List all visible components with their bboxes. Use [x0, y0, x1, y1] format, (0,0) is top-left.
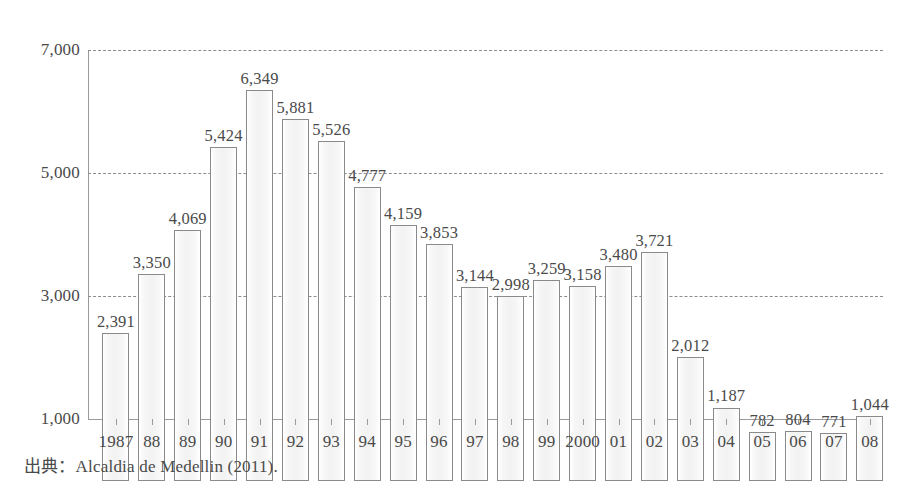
bar-value-label: 3,480	[599, 245, 637, 265]
x-axis-tick	[331, 419, 332, 425]
x-axis-tick-label: 94	[359, 432, 376, 452]
x-axis-tick	[188, 419, 189, 425]
x-axis-tick-label: 96	[430, 432, 447, 452]
y-axis-tick-label: 5,000	[41, 163, 80, 183]
bar	[282, 119, 309, 481]
bar-value-label: 3,721	[635, 231, 673, 251]
bar-value-label: 1,187	[707, 386, 745, 406]
bar-value-label: 5,424	[205, 126, 243, 146]
bar-value-label: 6,349	[240, 69, 278, 89]
y-axis-tick-label: 1,000	[41, 409, 80, 429]
bar-value-label: 2,391	[97, 312, 135, 332]
bar-value-label: 4,069	[169, 209, 207, 229]
x-axis-tick	[439, 419, 440, 425]
x-axis-tick-label: 98	[502, 432, 519, 452]
x-axis-tick	[726, 419, 727, 425]
bar-value-label: 3,259	[528, 259, 566, 279]
x-axis-tick	[295, 419, 296, 425]
x-axis-tick-label: 1987	[99, 432, 134, 452]
x-axis-tick-label: 92	[287, 432, 304, 452]
x-axis-tick	[654, 419, 655, 425]
x-axis-tick	[511, 419, 512, 425]
x-axis-tick	[583, 419, 584, 425]
y-axis-tick-label: 3,000	[41, 286, 80, 306]
bar-fill	[283, 120, 308, 480]
x-axis-tick-label: 05	[753, 432, 770, 452]
x-axis-tick	[690, 419, 691, 425]
y-axis-line	[88, 50, 89, 419]
bar-value-label: 5,526	[312, 120, 350, 140]
x-axis-tick-label: 93	[323, 432, 340, 452]
source-note: 出典：Alcaldia de Medellin (2011).	[24, 452, 278, 477]
plot-area: 7,0005,0003,0001,000 2,3913,3504,0695,42…	[88, 50, 883, 419]
x-axis-tick-label: 08	[861, 432, 878, 452]
x-axis-tick-label: 90	[215, 432, 232, 452]
gridline	[88, 50, 883, 51]
x-axis-tick-label: 88	[143, 432, 160, 452]
bar-value-label: 2,998	[492, 275, 530, 295]
bar	[210, 147, 237, 481]
bar-fill	[319, 142, 344, 480]
bar-value-label: 2,012	[671, 336, 709, 356]
x-axis-tick	[367, 419, 368, 425]
x-axis-tick	[870, 419, 871, 425]
x-axis-tick-label: 99	[538, 432, 555, 452]
bar-value-label: 4,777	[348, 166, 386, 186]
bar-value-label: 5,881	[276, 98, 314, 118]
y-axis-tick-label: 7,000	[41, 40, 80, 60]
bar	[318, 141, 345, 481]
x-axis-tick	[116, 419, 117, 425]
bar-value-label: 1,044	[851, 395, 889, 415]
x-axis-tick-label: 89	[179, 432, 196, 452]
bar-value-label: 3,350	[133, 253, 171, 273]
x-axis-tick-label: 04	[718, 432, 735, 452]
x-axis-tick	[260, 419, 261, 425]
x-axis-tick-label: 91	[251, 432, 268, 452]
x-axis-tick-label: 02	[646, 432, 663, 452]
x-axis-tick-label: 06	[789, 432, 806, 452]
bar-fill	[211, 148, 236, 480]
x-axis-tick-label: 03	[682, 432, 699, 452]
bar-value-label: 4,159	[384, 204, 422, 224]
bar-value-label: 3,144	[456, 266, 494, 286]
x-axis-tick-label: 01	[610, 432, 627, 452]
x-axis-tick	[547, 419, 548, 425]
x-axis-tick-label: 95	[394, 432, 411, 452]
bar-fill	[498, 297, 523, 479]
gridline	[88, 173, 883, 174]
x-axis-tick-label: 2000	[565, 432, 600, 452]
x-axis-tick	[834, 419, 835, 425]
x-axis-tick	[762, 419, 763, 425]
x-axis-tick-label: 97	[466, 432, 483, 452]
x-axis-tick-label: 07	[825, 432, 842, 452]
x-axis-tick	[152, 419, 153, 425]
x-axis-tick	[619, 419, 620, 425]
bar-value-label: 3,158	[564, 265, 602, 285]
bar-chart-figure: 7,0005,0003,0001,000 2,3913,3504,0695,42…	[0, 0, 915, 483]
bar	[497, 296, 524, 480]
x-axis-tick	[403, 419, 404, 425]
x-axis-tick	[798, 419, 799, 425]
x-axis-tick	[475, 419, 476, 425]
bar-value-label: 3,853	[420, 223, 458, 243]
x-axis-tick	[224, 419, 225, 425]
